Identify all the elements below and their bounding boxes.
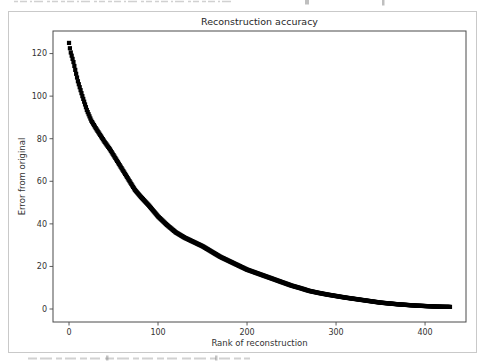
- y-tick-label: 80: [37, 135, 47, 144]
- data-point: [75, 75, 79, 79]
- axes-box: [53, 31, 466, 322]
- y-tick-label: 100: [32, 92, 47, 101]
- plot-title: Reconstruction accuracy: [201, 16, 318, 27]
- matplotlib-figure: Reconstruction accuracy 0100200300400 02…: [0, 0, 488, 361]
- y-tick-label: 120: [32, 49, 47, 58]
- data-point: [74, 72, 78, 76]
- x-tick-label: 0: [66, 328, 71, 337]
- x-axis-label: Rank of reconstruction: [211, 338, 307, 348]
- x-tick-label: 300: [328, 328, 343, 337]
- cropped-text-line-top: [14, 0, 385, 6]
- data-point: [67, 41, 71, 45]
- data-point: [448, 305, 452, 309]
- cropped-text-line-bottom: [28, 356, 250, 361]
- x-tick-label: 100: [150, 328, 165, 337]
- y-tick-label: 20: [37, 262, 47, 271]
- y-tick-label: 60: [37, 177, 47, 186]
- data-point: [68, 46, 72, 50]
- y-tick-label: 40: [37, 220, 47, 229]
- y-tick-label: 0: [42, 305, 47, 314]
- screenshot-root: Reconstruction accuracy 0100200300400 02…: [0, 0, 488, 361]
- x-tick-label: 400: [417, 328, 432, 337]
- data-point: [73, 68, 77, 72]
- y-axis-label: Error from original: [17, 138, 27, 216]
- data-point: [71, 60, 75, 64]
- data-point: [72, 64, 76, 68]
- x-tick-label: 200: [239, 328, 254, 337]
